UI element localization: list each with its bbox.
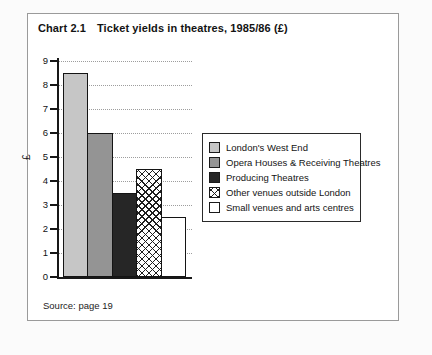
bar-londons-west-end[interactable] [63, 73, 88, 277]
y-axis-title: £ [21, 154, 32, 160]
y-axis-line [57, 58, 59, 279]
source-note: Source: page 19 [43, 300, 113, 311]
bar-opera-houses-receiving-theatres[interactable] [87, 133, 112, 277]
y-tick-label-0: 0 [32, 271, 48, 282]
y-tick-label-4: 4 [32, 175, 48, 186]
legend-swatch-icon-light-grey [209, 142, 220, 153]
y-tick-label-1: 1 [32, 247, 48, 258]
legend-item-opera-houses-receiving-theatres[interactable]: Opera Houses & Receiving Theatres [209, 155, 355, 170]
legend-item-londons-west-end[interactable]: London's West End [209, 140, 355, 155]
legend: London's West End Opera Houses & Receivi… [202, 133, 361, 222]
legend-label-2: Producing Theatres [226, 172, 309, 183]
legend-item-small-venues-and-arts-centres[interactable]: Small venues and arts centres [209, 200, 355, 215]
bar-other-venues-outside-london[interactable] [136, 169, 161, 277]
y-tick-label-5: 5 [32, 151, 48, 162]
x-axis-line [57, 277, 192, 279]
legend-label-3: Other venues outside London [226, 187, 351, 198]
bar-group [63, 58, 186, 277]
y-tick-label-8: 8 [32, 79, 48, 90]
legend-item-producing-theatres[interactable]: Producing Theatres [209, 170, 355, 185]
y-tick-label-6: 6 [32, 127, 48, 138]
bar-producing-theatres[interactable] [112, 193, 137, 277]
y-tick-label-2: 2 [32, 223, 48, 234]
bar-small-venues-and-arts-centres[interactable] [161, 217, 186, 277]
legend-label-4: Small venues and arts centres [226, 202, 354, 213]
chart-page: Chart 2.1Ticket yields in theatres, 1985… [0, 0, 432, 355]
legend-label-1: Opera Houses & Receiving Theatres [226, 157, 381, 168]
y-tick-label-9: 9 [32, 55, 48, 66]
y-tick-label-3: 3 [32, 199, 48, 210]
legend-swatch-icon-white [209, 202, 220, 213]
legend-swatch-icon-cross-hatch [209, 187, 220, 198]
legend-swatch-icon-mid-grey [209, 157, 220, 168]
legend-swatch-icon-black [209, 172, 220, 183]
legend-label-0: London's West End [226, 142, 308, 153]
legend-item-other-venues-outside-london[interactable]: Other venues outside London [209, 185, 355, 200]
y-tick-label-7: 7 [32, 103, 48, 114]
